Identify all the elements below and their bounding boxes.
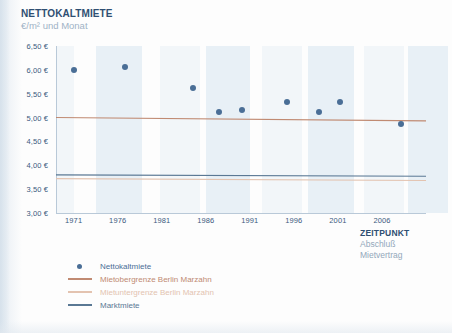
- data-point: [71, 67, 77, 73]
- legend-label: Mietuntergrenze Berlin Marzahn: [100, 286, 214, 299]
- data-point: [337, 99, 343, 105]
- x-axis-tick-label: 1986: [197, 216, 214, 225]
- chart-legend: NettokaltmieteMietobergrenze Berlin Marz…: [68, 260, 298, 312]
- x-axis-tick-label: 1991: [241, 216, 258, 225]
- y-axis-tick-label: 4,00 €: [27, 161, 48, 170]
- y-axis-tick-label: 5,00 €: [27, 114, 48, 123]
- legend-label: Marktmiete: [100, 299, 140, 312]
- data-point: [122, 64, 128, 70]
- legend-item: Mietuntergrenze Berlin Marzahn: [68, 286, 298, 299]
- y-axis-tick-label: 3,00 €: [27, 209, 48, 218]
- x-axis-subtitle-line2: Mietvertrag: [360, 250, 410, 261]
- plot-area: [56, 46, 426, 213]
- x-axis-tick-label: 2006: [373, 216, 390, 225]
- legend-label: Mietobergrenze Berlin Marzahn: [100, 273, 212, 286]
- data-point: [316, 109, 322, 115]
- y-axis-tick-label: 4,50 €: [27, 137, 48, 146]
- x-axis-tick-label: 1981: [153, 216, 170, 225]
- legend-label: Nettokaltmiete: [100, 260, 151, 273]
- data-point: [216, 109, 222, 115]
- x-axis-tick-label: 1976: [109, 216, 126, 225]
- legend-item: Nettokaltmiete: [68, 260, 298, 273]
- y-axis-labels: 6,50 €6,00 €5,50 €5,00 €4,50 €4,00 €3,50…: [0, 46, 52, 213]
- reference-line: [56, 175, 426, 176]
- y-axis-tick-label: 6,50 €: [27, 42, 48, 51]
- legend-dot-marker: [77, 264, 82, 269]
- reference-line: [56, 179, 426, 181]
- legend-line-marker: [68, 278, 92, 280]
- legend-line-marker: [68, 304, 92, 306]
- data-point: [284, 99, 290, 105]
- x-axis-tick-label: 1971: [65, 216, 82, 225]
- data-point: [398, 121, 404, 127]
- x-axis-tick-label: 2001: [329, 216, 346, 225]
- legend-line-marker: [68, 291, 92, 293]
- x-axis-line: [56, 213, 426, 214]
- x-axis-title-block: ZEITPUNKT Abschluß Mietvertrag: [360, 228, 410, 261]
- data-point: [239, 107, 245, 113]
- x-axis-title: ZEITPUNKT: [360, 228, 410, 239]
- reference-line: [56, 118, 426, 121]
- legend-item: Mietobergrenze Berlin Marzahn: [68, 273, 298, 286]
- page-title: NETTOKALTMIETE: [21, 8, 113, 20]
- legend-item: Marktmiete: [68, 299, 298, 312]
- x-axis-tick-label: 1996: [285, 216, 302, 225]
- reference-lines: [56, 46, 426, 213]
- data-point: [190, 85, 196, 91]
- chart-title-block: NETTOKALTMIETE €/m² und Monat: [21, 8, 113, 32]
- y-axis-tick-label: 5,50 €: [27, 90, 48, 99]
- x-axis-subtitle-line1: Abschluß: [360, 239, 410, 250]
- page-subtitle: €/m² und Monat: [21, 20, 113, 32]
- y-axis-tick-label: 6,00 €: [27, 66, 48, 75]
- y-axis-tick-label: 3,50 €: [27, 185, 48, 194]
